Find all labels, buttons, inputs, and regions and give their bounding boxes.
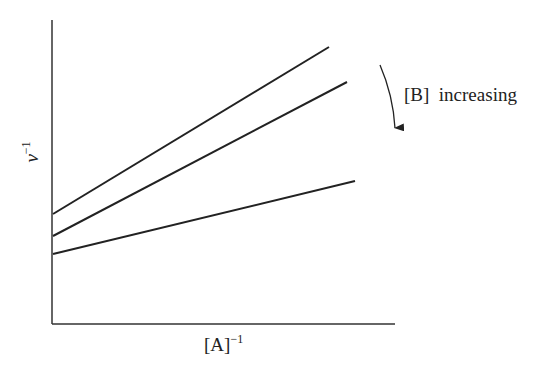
y-axis-label-sup: −1 — [19, 141, 33, 154]
line-medium-b — [53, 82, 347, 236]
x-axis-label: [A]−1 — [204, 332, 243, 355]
y-axis-label: v−1 — [19, 141, 42, 162]
increasing-arrow-icon — [380, 65, 395, 128]
lineweaver-burk-plot: [B] increasing [A]−1 v−1 — [0, 0, 560, 369]
x-axis-label-base: [A] — [204, 334, 230, 355]
line-highest-b — [53, 181, 355, 254]
line-lowest-b — [53, 47, 329, 214]
x-axis-label-sup: −1 — [230, 332, 243, 346]
annotation-label: [B] increasing — [404, 84, 517, 105]
